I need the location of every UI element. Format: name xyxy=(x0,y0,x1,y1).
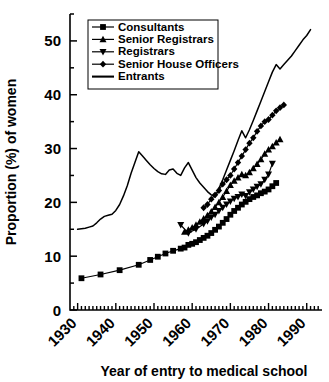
y-axis-title: Proportion (%) of women xyxy=(3,79,19,245)
data-point-marker xyxy=(147,257,153,263)
line-chart: 01020304050 1930194019501960197019801990… xyxy=(0,0,329,382)
legend-label: Consultants xyxy=(118,21,184,33)
legend-label: Entrants xyxy=(118,70,165,82)
data-point-marker xyxy=(273,180,279,186)
y-tick-label: 50 xyxy=(44,32,61,49)
data-point-marker xyxy=(117,267,123,273)
legend-label: Senior Registrars xyxy=(118,33,214,45)
y-tick-label: 20 xyxy=(44,194,61,211)
data-point-marker xyxy=(136,262,142,268)
chart-legend: ConsultantsSenior RegistrarsRegistrarsSe… xyxy=(88,20,239,89)
data-point-marker xyxy=(98,272,104,278)
chart-figure: 01020304050 1930194019501960197019801990… xyxy=(0,0,329,382)
data-point-marker xyxy=(79,275,85,281)
x-axis-title: Year of entry to medical school xyxy=(101,363,308,379)
legend-label: Senior House Officers xyxy=(118,58,239,70)
y-tick-label: 0 xyxy=(53,302,61,319)
data-point-marker xyxy=(100,24,106,30)
data-point-marker xyxy=(163,251,169,257)
y-tick-label: 30 xyxy=(44,140,61,157)
y-tick-label: 10 xyxy=(44,248,61,265)
data-point-marker xyxy=(155,254,161,260)
y-tick-label: 40 xyxy=(44,86,61,103)
legend-label: Registrars xyxy=(118,45,175,57)
data-point-marker xyxy=(170,248,176,254)
